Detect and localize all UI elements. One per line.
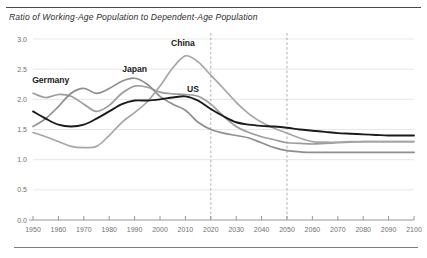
x-tick-label: 2070 <box>330 226 346 233</box>
y-tick-label: 0.0 <box>17 217 27 224</box>
y-tick-label: 2.5 <box>17 66 27 73</box>
line-chart-plot: 0.00.51.01.52.02.53.0 195019601970198019… <box>0 0 427 258</box>
x-tick-label: 2060 <box>305 226 321 233</box>
x-tick-label: 1990 <box>127 226 143 233</box>
chart-page: Ratio of Working-Age Population to Depen… <box>0 0 427 258</box>
series-label-china: China <box>171 38 195 48</box>
x-tick-label: 1980 <box>101 226 117 233</box>
x-tick-label: 2090 <box>381 226 397 233</box>
footer-divider <box>14 247 418 248</box>
x-tick-label: 1960 <box>51 226 67 233</box>
x-tick-label: 2000 <box>152 226 168 233</box>
x-axis-tick-labels: 1950196019701980199020002010202020302040… <box>25 226 422 233</box>
y-tick-label: 1.0 <box>17 156 27 163</box>
y-axis-tick-labels: 0.00.51.01.52.02.53.0 <box>17 36 27 224</box>
gridlines <box>33 39 414 190</box>
x-axis <box>29 216 414 220</box>
y-tick-label: 3.0 <box>17 36 27 43</box>
series-label-japan: Japan <box>122 64 147 74</box>
series-label-germany: Germany <box>32 75 69 85</box>
x-tick-label: 2050 <box>279 226 295 233</box>
x-tick-label: 1970 <box>76 226 92 233</box>
series-label-us: US <box>187 84 199 94</box>
x-tick-label: 2030 <box>228 226 244 233</box>
x-tick-label: 1950 <box>25 226 41 233</box>
x-tick-label: 2010 <box>178 226 194 233</box>
y-tick-label: 1.5 <box>17 126 27 133</box>
series-lines <box>33 56 414 153</box>
x-tick-label: 2020 <box>203 226 219 233</box>
y-tick-label: 0.5 <box>17 186 27 193</box>
x-tick-label: 2040 <box>254 226 270 233</box>
x-tick-label: 2100 <box>406 226 422 233</box>
x-tick-label: 2080 <box>355 226 371 233</box>
y-tick-label: 2.0 <box>17 96 27 103</box>
series-line-germany <box>33 86 414 144</box>
